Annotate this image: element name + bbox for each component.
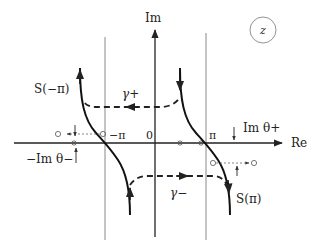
annotation-im-theta-plus: Im θ+ <box>243 121 280 135</box>
contour-diagram: z Im Re 0 −π π S(−π) S(π) γ+ γ− Im θ+ −I… <box>0 0 318 250</box>
pole-circle-left-end <box>55 131 60 136</box>
minus-pi-label: −π <box>109 129 125 142</box>
real-axis-label: Re <box>291 136 307 150</box>
contour-label-gamma-plus: γ+ <box>122 87 139 101</box>
pole-circle-right-end <box>251 160 256 165</box>
plus-pi-label: π <box>209 129 216 142</box>
curve-label-s-minus-pi: S(−π) <box>34 82 70 96</box>
arrow-down-right-bottom <box>228 180 229 193</box>
curve-label-s-plus-pi: S(π) <box>236 192 261 206</box>
pole-circle-right-start <box>210 160 215 165</box>
curve-s-plus-pi <box>180 68 230 215</box>
contour-label-gamma-minus: γ− <box>170 186 187 200</box>
annotation-minus-im-theta-minus: −Im θ− <box>26 152 73 166</box>
imag-axis-label: Im <box>145 11 162 25</box>
plane-label: z <box>259 24 266 37</box>
contour-gamma-minus <box>130 176 227 186</box>
origin-label: 0 <box>146 129 153 142</box>
